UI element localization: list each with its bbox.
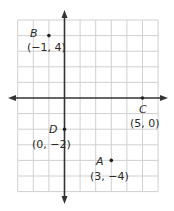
point-a-name: A [96,156,104,168]
point-a-coords: (3, −4) [90,171,129,183]
point-d-dot [63,127,67,131]
point-b-dot [47,34,51,38]
point-a-dot [110,159,114,163]
point-d-name: D [49,124,57,136]
point-c-name: C [139,104,147,116]
point-d-coords: (0, −2) [32,139,71,151]
point-b-name: B [30,28,38,40]
point-c-coords: (5, 0) [130,118,160,130]
point-b-coords: (−1, 4) [27,42,66,54]
coordinate-plane [0,0,174,211]
point-c-dot [141,96,145,100]
